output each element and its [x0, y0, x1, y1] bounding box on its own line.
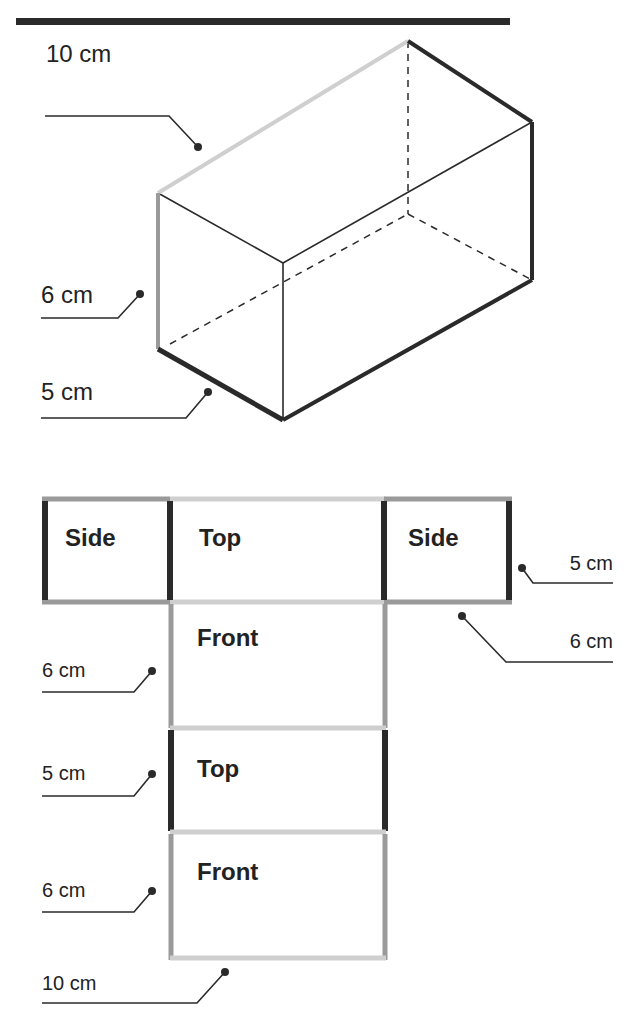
face-label-side-left: Side [65, 524, 116, 551]
prism-leaders [41, 116, 208, 418]
label-side-height: 6 cm [570, 630, 613, 652]
rectangular-prism [158, 41, 532, 420]
face-label-front-2: Front [197, 858, 258, 885]
face-label-top-2: Top [197, 755, 239, 782]
visible-edges [158, 122, 532, 420]
net-leaders [42, 568, 613, 1003]
label-length: 10 cm [46, 40, 111, 67]
face-label-top-1: Top [199, 524, 241, 551]
label-side-width: 5 cm [570, 552, 613, 574]
label-height: 6 cm [41, 281, 93, 308]
label-width: 5 cm [41, 378, 93, 405]
edge-width-5cm [158, 349, 283, 420]
label-top2-height: 5 cm [42, 762, 85, 784]
label-front2-height: 6 cm [42, 879, 85, 901]
face-label-front-1: Front [197, 624, 258, 651]
prism-net-diagram: 10 cm 6 cm 5 cm Side Top Side Front Top … [0, 0, 641, 1034]
edge-length-10cm [158, 41, 408, 193]
label-front1-height: 6 cm [42, 659, 85, 681]
prism-net [42, 499, 512, 960]
edge-back-top [408, 41, 532, 122]
face-label-side-right: Side [408, 524, 459, 551]
label-bottom-length: 10 cm [42, 972, 96, 994]
edge-bottom-right [283, 280, 532, 420]
header-rule [16, 18, 510, 25]
